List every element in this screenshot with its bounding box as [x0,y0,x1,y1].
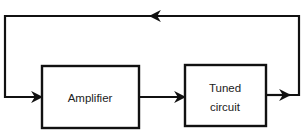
oscillator-block-diagram: Amplifier Tuned circuit [0,0,308,135]
tuned-circuit-label-line-2: circuit [210,101,241,113]
amplifier-block: Amplifier [42,66,139,128]
tuned-circuit-block: Tuned circuit [185,65,266,126]
tuned-circuit-label-line-1: Tuned [209,82,241,94]
amplifier-label: Amplifier [68,92,113,104]
